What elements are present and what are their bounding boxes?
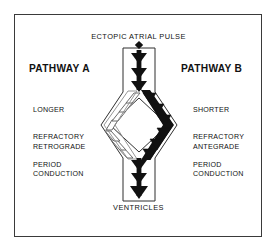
pathway-b-antegrade-arrows (141, 90, 174, 160)
pathway-a-conduction-label: RETROGRADE CONDUCTION (33, 125, 86, 198)
top-arrow-chevron-1 (131, 53, 147, 64)
pathway-b-title: PATHWAY B (181, 63, 242, 74)
pathway-a-title: PATHWAY A (29, 63, 90, 74)
top-arrow-chevron-2 (131, 68, 147, 79)
bottom-arrow-chevron-2 (131, 173, 147, 184)
pathway-b-refractory-line1: SHORTER (193, 106, 244, 115)
ventricles-label: VENTRICLES (0, 203, 277, 212)
bottom-arrow-head (130, 186, 148, 199)
bottom-arrow-chevron-1 (131, 160, 147, 171)
pathway-b-conduction-line2: CONDUCTION (193, 170, 244, 179)
top-antegrade-arrow-group (131, 50, 147, 92)
pathway-a-refractory-line1: LONGER (33, 106, 84, 115)
diagram-page: ECTOPIC ATRIAL PULSE PATHWAY A LONGER RE… (0, 0, 277, 251)
pathway-b-conduction-label: ANTEGRADE CONDUCTION (193, 125, 244, 198)
ectopic-atrial-pulse-label: ECTOPIC ATRIAL PULSE (0, 32, 277, 41)
pathway-a-conduction-line2: CONDUCTION (33, 170, 86, 179)
bottom-antegrade-arrow-group (130, 158, 148, 199)
pathway-a-conduction-line1: RETROGRADE (33, 143, 86, 152)
pathway-b-conduction-line1: ANTEGRADE (193, 143, 244, 152)
